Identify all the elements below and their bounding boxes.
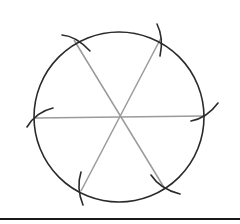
compass-arc-marks: [27, 24, 218, 205]
diameter-lines: [35, 38, 204, 191]
diameter-line: [74, 40, 165, 189]
diameter-line: [81, 38, 161, 191]
arc-mark: [151, 175, 180, 194]
circle-division-diagram: [0, 0, 240, 224]
